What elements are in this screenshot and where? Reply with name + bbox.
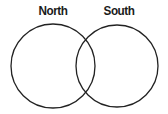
north-circle <box>11 24 95 108</box>
south-circle <box>76 25 158 107</box>
venn-diagram <box>0 0 168 114</box>
north-label: North <box>38 3 69 18</box>
south-label: South <box>103 3 135 18</box>
